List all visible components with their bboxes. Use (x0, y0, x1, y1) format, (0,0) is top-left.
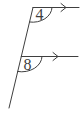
angle-diagram-svg: 4 8 (0, 0, 81, 114)
angle-label-bottom: 8 (24, 56, 32, 73)
geometry-figure: 4 8 (0, 0, 81, 114)
angle-label-top: 4 (36, 6, 44, 23)
